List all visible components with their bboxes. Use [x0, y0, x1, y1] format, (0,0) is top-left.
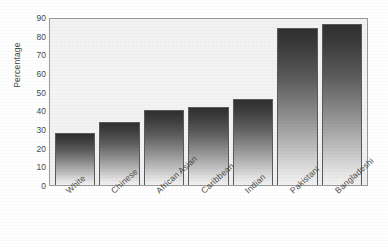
bar-series — [50, 19, 367, 185]
bar — [277, 28, 317, 185]
y-axis-tick-label: 70 — [26, 50, 46, 60]
y-axis-tick-labels: 9080706050403020100 — [26, 18, 46, 186]
plot-area — [49, 18, 368, 186]
y-axis-tick-label: 30 — [26, 125, 46, 135]
y-axis-tick-label: 60 — [26, 69, 46, 79]
bar — [322, 24, 362, 185]
y-axis-title: Percentage — [12, 15, 22, 115]
y-axis-tick-label: 40 — [26, 106, 46, 116]
y-axis-tick-label: 50 — [26, 88, 46, 98]
y-axis-tick-label: 0 — [26, 181, 46, 191]
bar-chart: Percentage 9080706050403020100 WhiteChin… — [0, 0, 388, 247]
bar — [233, 99, 273, 185]
y-axis-tick-label: 90 — [26, 13, 46, 23]
y-axis-tick-label: 20 — [26, 144, 46, 154]
x-axis-tick-labels: WhiteChineseAfrican AsianCaribbeanIndian… — [49, 188, 368, 247]
y-axis-tick-label: 10 — [26, 162, 46, 172]
y-axis-tick-label: 80 — [26, 32, 46, 42]
